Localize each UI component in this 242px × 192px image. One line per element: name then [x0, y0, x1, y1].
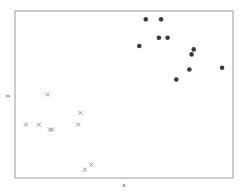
circle-marker [187, 67, 192, 72]
circle-marker [165, 35, 170, 40]
circle-marker [189, 52, 194, 57]
circle-marker [174, 77, 179, 82]
y-axis-label: y [3, 94, 11, 98]
circle-marker [137, 44, 142, 49]
circle-marker [159, 17, 164, 22]
circle-marker [157, 35, 162, 40]
circle-marker [144, 17, 149, 22]
scatter-chart: x y [0, 0, 242, 192]
circle-marker [220, 65, 225, 70]
circle-marker [191, 47, 196, 52]
x-axis-label: x [122, 181, 126, 188]
